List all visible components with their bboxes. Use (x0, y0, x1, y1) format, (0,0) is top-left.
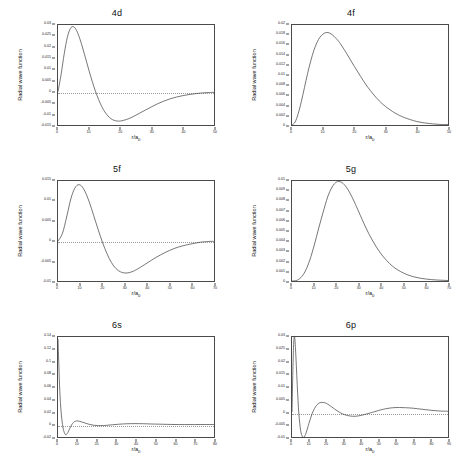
y-tick-mark (286, 105, 289, 106)
wavefunction-curve (292, 337, 448, 437)
y-tick-mark (286, 220, 289, 221)
y-axis-ticks: -0.0200.020.040.060.080.10.120.14 (0, 336, 55, 438)
y-tick-mark (52, 399, 55, 400)
plot-area (291, 24, 449, 126)
y-tick-label: 0.005 (42, 79, 51, 83)
y-tick-mark (286, 115, 289, 116)
chart-panel-6s: 6sRadial wave function-0.0200.020.040.06… (0, 312, 234, 468)
y-tick-label: -0.01 (277, 436, 285, 440)
y-tick-mark (286, 210, 289, 211)
y-tick-label: 0.004 (276, 239, 285, 243)
y-tick-label: 0 (49, 239, 51, 243)
y-tick-mark (286, 387, 289, 388)
y-tick-label: 0.02 (44, 45, 51, 49)
y-tick-mark (286, 361, 289, 362)
y-tick-label: 0.001 (276, 270, 285, 274)
panel-title: 6p (234, 320, 468, 330)
y-tick-mark (286, 64, 289, 65)
y-tick-mark (286, 85, 289, 86)
plot-area (57, 336, 215, 438)
y-tick-label: 0.025 (42, 34, 51, 38)
y-tick-mark (52, 35, 55, 36)
y-tick-label: 0.018 (276, 32, 285, 36)
panel-title: 5g (234, 164, 468, 174)
plot-area (57, 24, 215, 126)
y-tick-label: 0.002 (276, 260, 285, 264)
y-tick-label: -0.005 (275, 423, 285, 427)
y-tick-label: 0.01 (44, 199, 51, 203)
y-tick-mark (286, 399, 289, 400)
y-tick-label: 0 (49, 423, 51, 427)
y-tick-mark (286, 54, 289, 55)
y-tick-mark (286, 190, 289, 191)
x-axis-title: r/a0 (291, 446, 449, 454)
y-tick-mark (286, 438, 289, 439)
y-tick-mark (52, 374, 55, 375)
y-tick-mark (52, 387, 55, 388)
x-axis-title-subscript: 0 (138, 449, 140, 454)
y-tick-mark (286, 271, 289, 272)
y-tick-mark (286, 95, 289, 96)
y-tick-label: 0.005 (42, 219, 51, 223)
y-tick-label: 0.02 (278, 22, 285, 26)
y-tick-label: 0.02 (278, 360, 285, 364)
wavefunction-curve (292, 181, 448, 281)
y-tick-label: 0.006 (276, 94, 285, 98)
x-axis-title: r/a0 (291, 134, 449, 142)
x-axis-title: r/a0 (57, 134, 215, 142)
y-tick-mark (286, 241, 289, 242)
x-axis-title: r/a0 (57, 290, 215, 298)
y-tick-label: 0.03 (278, 334, 285, 338)
panel-title: 4d (0, 8, 234, 18)
y-tick-label: 0.08 (44, 372, 51, 376)
y-tick-label: 0.009 (276, 188, 285, 192)
y-tick-label: 0.1 (46, 360, 51, 364)
y-tick-mark (286, 374, 289, 375)
y-tick-mark (286, 44, 289, 45)
y-tick-label: 0 (49, 90, 51, 94)
y-tick-mark (286, 126, 289, 127)
y-axis-ticks: -0.015-0.01-0.00500.0050.010.0150.020.02… (0, 24, 55, 126)
y-tick-mark (286, 336, 289, 337)
y-tick-label: -0.005 (41, 102, 51, 106)
chart-panel-4f: 4fRadial wave function00.0020.0040.0060.… (234, 0, 468, 156)
wavefunction-curve (58, 337, 214, 437)
plot-area (291, 180, 449, 282)
y-tick-mark (286, 231, 289, 232)
y-tick-label: 0.01 (278, 73, 285, 77)
y-tick-mark (286, 200, 289, 201)
y-tick-mark (52, 24, 55, 25)
y-tick-label: 0.12 (44, 347, 51, 351)
x-axis-title-subscript: 0 (138, 293, 140, 298)
y-tick-mark (52, 412, 55, 413)
x-axis-title: r/a0 (57, 446, 215, 454)
plot-area (291, 336, 449, 438)
chart-panel-5f: 5fRadial wave function-0.01-0.00500.0050… (0, 156, 234, 312)
figure-panel-grid: 4dRadial wave function-0.015-0.01-0.0050… (0, 0, 468, 468)
x-axis-title-subscript: 0 (138, 137, 140, 142)
y-tick-label: 0 (283, 124, 285, 128)
y-tick-label: 0.007 (276, 209, 285, 213)
y-tick-label: -0.01 (43, 113, 51, 117)
y-tick-mark (52, 46, 55, 47)
chart-panel-4d: 4dRadial wave function-0.015-0.01-0.0050… (0, 0, 234, 156)
y-tick-label: 0.01 (278, 178, 285, 182)
y-tick-mark (52, 241, 55, 242)
y-tick-label: -0.005 (41, 260, 51, 264)
plot-area (57, 180, 215, 282)
y-tick-mark (52, 438, 55, 439)
y-tick-label: -0.015 (41, 124, 51, 128)
y-tick-mark (286, 412, 289, 413)
y-tick-mark (52, 261, 55, 262)
y-tick-label: 0.01 (44, 68, 51, 72)
y-tick-mark (52, 361, 55, 362)
y-tick-label: 0.005 (276, 229, 285, 233)
y-tick-mark (52, 69, 55, 70)
y-tick-label: 0.012 (276, 63, 285, 67)
x-axis-title: r/a0 (291, 290, 449, 298)
y-tick-mark (52, 336, 55, 337)
y-tick-label: 0 (283, 280, 285, 284)
y-tick-mark (52, 80, 55, 81)
y-tick-label: 0.008 (276, 83, 285, 87)
y-tick-mark (52, 103, 55, 104)
